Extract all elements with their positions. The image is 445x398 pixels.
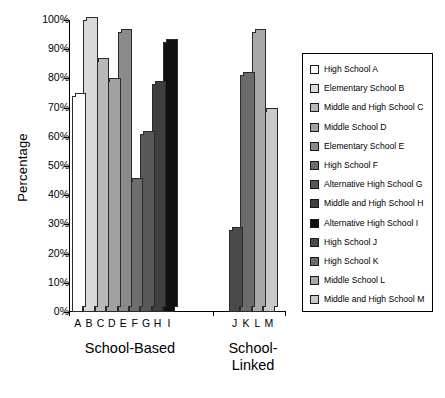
x-axis-label-m: M [262,317,276,329]
bar-side-face [128,29,132,307]
group-label-school-linked-line2: Linked [213,357,293,374]
legend-item-c[interactable]: Middle and High School C [303,98,432,117]
y-axis-tick-label: 100% [25,14,69,24]
legend-swatch-icon [310,219,319,228]
y-axis-tick-label: 60% [25,131,69,141]
y-axis-tick-label: 10% [25,277,69,287]
legend-swatch-icon [310,84,319,93]
y-axis-tick-label: 50% [25,160,69,170]
y-axis-tick-label: 90% [25,43,69,53]
legend-label: Alternative High School G [324,180,422,189]
legend-item-g[interactable]: Alternative High School G [303,175,432,194]
legend-item-j[interactable]: High School J [303,233,432,252]
legend-swatch-icon [310,295,319,304]
legend-item-a[interactable]: High School A [303,60,432,79]
legend-label: Middle and High School C [324,103,423,112]
legend-item-d[interactable]: Middle School D [303,118,432,137]
legend-swatch-icon [310,199,319,208]
x-axis-tick-start [69,311,70,316]
y-axis-tick-label: 0% [25,306,69,316]
bar-side-face [94,17,98,307]
group-label-school-based: School-Based [60,340,200,357]
legend-label: Middle School D [324,123,387,132]
legend-label: High School A [324,65,378,74]
bar-side-face [139,178,143,307]
group-label-school-linked-line1: School- [213,340,293,357]
bar-side-face [82,93,86,307]
bar-side-face [251,72,255,307]
legend-label: High School K [324,257,378,266]
legend-swatch-icon [310,142,319,151]
legend-swatch-icon [310,180,319,189]
legend-item-i[interactable]: Alternative High School I [303,214,432,233]
plot-area [70,20,285,312]
legend-label: High School F [324,161,378,170]
x-axis-tick-middle [213,311,214,316]
legend-label: High School J [324,238,377,247]
legend-item-k[interactable]: High School K [303,252,432,271]
y-axis-tick-label: 20% [25,248,69,258]
legend-swatch-icon [310,123,319,132]
y-axis-tick-label: 30% [25,218,69,228]
legend-label: Middle and High School H [324,199,423,208]
legend-swatch-icon [310,65,319,74]
legend-label: Middle and High School M [324,295,424,304]
bar-side-face [274,108,278,307]
legend-label: Elementary School B [324,84,404,93]
legend-item-h[interactable]: Middle and High School H [303,194,432,213]
legend: High School AElementary School BMiddle a… [302,53,433,312]
legend-item-e[interactable]: Elementary School E [303,137,432,156]
legend-item-b[interactable]: Elementary School B [303,79,432,98]
bar-side-face [239,227,243,307]
bar-side-face [174,39,178,307]
bar-a [72,96,83,312]
y-axis-tick-label: 80% [25,72,69,82]
bar-side-face [117,78,121,307]
bar-chart: Percentage 100%90%80%70%60%50%40%30%20%1… [0,0,445,398]
legend-label: Middle School L [324,276,385,285]
legend-swatch-icon [310,276,319,285]
bar-side-face [262,29,266,307]
y-axis-tick-label: 40% [25,189,69,199]
legend-item-m[interactable]: Middle and High School M [303,290,432,309]
bar-side-face [151,131,155,307]
legend-swatch-icon [310,103,319,112]
x-axis-label-i: I [162,317,176,329]
legend-swatch-icon [310,257,319,266]
y-axis-tick-label: 70% [25,102,69,112]
legend-swatch-icon [310,161,319,170]
legend-item-f[interactable]: High School F [303,156,432,175]
x-axis-tick-end [285,311,286,316]
bar-side-face [162,81,166,307]
legend-label: Alternative High School I [324,219,418,228]
legend-swatch-icon [310,238,319,247]
bar-side-face [105,58,109,307]
legend-item-l[interactable]: Middle School L [303,271,432,290]
legend-label: Elementary School E [324,142,404,151]
bar-j [229,230,240,312]
